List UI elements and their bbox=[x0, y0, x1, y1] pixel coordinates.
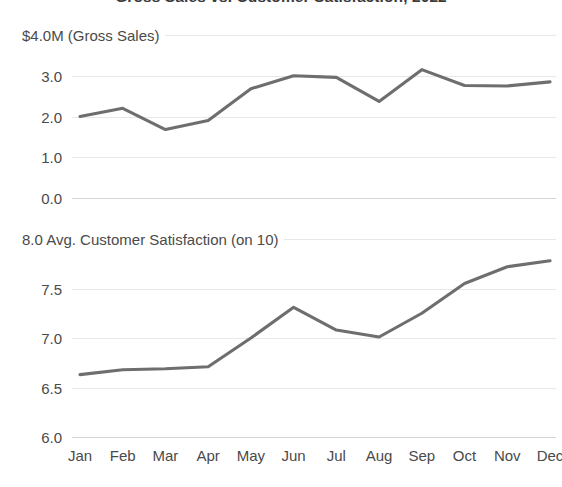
x-axis-tick-label: Jun bbox=[282, 447, 306, 464]
x-axis-tick-label: Nov bbox=[494, 447, 521, 464]
y-axis-unit-label: 8.0 Avg. Customer Satisfaction (on 10) bbox=[22, 231, 284, 248]
x-axis-tick-label: May bbox=[237, 447, 265, 464]
y-axis-tick-label: 7.5 bbox=[0, 280, 62, 297]
y-axis-tick-label: 3.0 bbox=[0, 67, 62, 84]
y-axis-tick-label: 2.0 bbox=[0, 108, 62, 125]
y-axis-tick-label: 6.5 bbox=[0, 379, 62, 396]
x-axis-month-labels: JanFebMarAprMayJunJulAugSepOctNovDec bbox=[0, 447, 562, 469]
x-axis-tick-label: Feb bbox=[110, 447, 136, 464]
x-axis-tick-label: Dec bbox=[537, 447, 562, 464]
data-series-line bbox=[80, 70, 550, 130]
y-axis-unit-label: $4.0M (Gross Sales) bbox=[22, 27, 165, 44]
y-axis-tick-label: 0.0 bbox=[0, 190, 62, 207]
x-axis-tick-label: Aug bbox=[366, 447, 393, 464]
y-axis-tick-label: 1.0 bbox=[0, 149, 62, 166]
x-axis-tick-label: Apr bbox=[197, 447, 220, 464]
x-axis-tick-label: Sep bbox=[408, 447, 435, 464]
chart-screenshot: Gross Sales vs. Customer Satisfaction, 2… bbox=[0, 0, 562, 487]
x-axis-tick-label: Jan bbox=[68, 447, 92, 464]
x-axis-tick-label: Jul bbox=[327, 447, 346, 464]
x-axis-tick-label: Mar bbox=[153, 447, 179, 464]
data-series-line bbox=[80, 261, 550, 375]
y-axis-tick-label: 6.0 bbox=[0, 429, 62, 446]
y-axis-tick-label: 7.0 bbox=[0, 330, 62, 347]
x-axis-tick-label: Oct bbox=[453, 447, 476, 464]
